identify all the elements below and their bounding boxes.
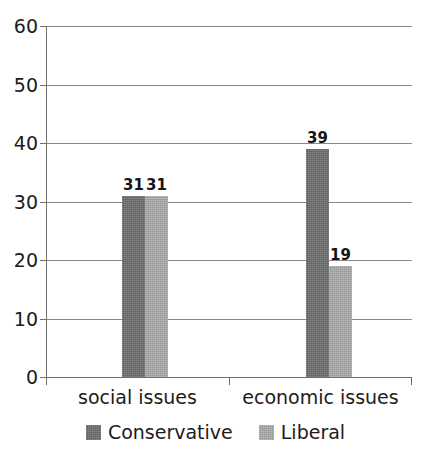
chart-legend: Conservative Liberal (0, 423, 431, 442)
y-tick-label-40: 40 (0, 134, 38, 153)
bar-liberal-social-issues (145, 196, 168, 377)
y-tick-mark-50 (40, 85, 46, 86)
x-category-label-social-issues: social issues (46, 386, 229, 409)
gridline-40 (46, 143, 412, 144)
bar-value-liberal-social-issues: 31 (145, 178, 168, 193)
bar-conservative-economic-issues (306, 149, 329, 377)
x-tick-mark-right (411, 378, 412, 385)
legend-entry-conservative: Conservative (86, 423, 233, 442)
y-tick-label-30: 30 (0, 193, 38, 212)
x-tick-mark-left (46, 378, 47, 385)
y-tick-label-60: 60 (0, 17, 38, 36)
gridline-20 (46, 260, 412, 261)
plot-area: 31 31 39 19 (46, 26, 412, 377)
y-tick-mark-60 (40, 26, 46, 27)
bar-value-liberal-economic-issues: 19 (329, 248, 352, 263)
legend-swatch-conservative-icon (86, 425, 101, 440)
bar-liberal-economic-issues (329, 266, 352, 377)
y-tick-mark-10 (40, 319, 46, 320)
legend-swatch-liberal-icon (259, 425, 274, 440)
y-tick-label-50: 50 (0, 76, 38, 95)
gridline-30 (46, 202, 412, 203)
gridline-10 (46, 319, 412, 320)
bar-conservative-social-issues (122, 196, 145, 377)
bar-value-conservative-social-issues: 31 (122, 178, 145, 193)
y-tick-mark-20 (40, 260, 46, 261)
x-category-label-economic-issues: economic issues (229, 386, 412, 409)
y-tick-mark-40 (40, 143, 46, 144)
legend-label-conservative: Conservative (108, 423, 233, 442)
gridline-50 (46, 85, 412, 86)
bar-value-conservative-economic-issues: 39 (306, 131, 329, 146)
bar-chart: 31 31 39 19 60 50 40 30 20 10 0 social i… (0, 0, 431, 466)
y-tick-label-0: 0 (0, 368, 38, 387)
x-tick-mark-middle (229, 378, 230, 385)
y-tick-mark-30 (40, 202, 46, 203)
y-tick-label-10: 10 (0, 310, 38, 329)
y-tick-label-20: 20 (0, 251, 38, 270)
y-axis-line (46, 26, 47, 378)
gridline-60 (46, 26, 412, 27)
legend-entry-liberal: Liberal (259, 423, 345, 442)
legend-label-liberal: Liberal (281, 423, 345, 442)
